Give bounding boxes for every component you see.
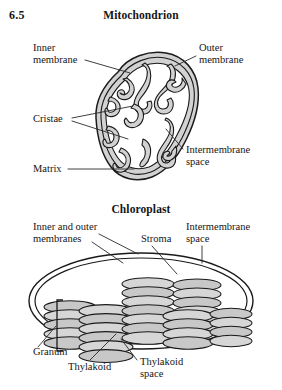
label-intermembrane-space-mito: Intermembrane space [186, 144, 250, 167]
leader-outer-membrane [175, 56, 196, 66]
granum-stack-4 [173, 279, 221, 336]
label-granum: Granum [33, 346, 67, 358]
inner-membrane-ellipse [35, 258, 247, 344]
granum-bracket [57, 300, 63, 351]
label-thylakoid: Thylakoid [68, 361, 111, 373]
thylakoid-disc [163, 337, 213, 349]
thylakoid-disc [173, 279, 221, 291]
thylakoid-disc [44, 310, 96, 322]
thylakoid-disc [122, 287, 174, 300]
leader-inner-membrane [85, 60, 130, 73]
thylakoid-disc [163, 328, 213, 340]
label-inner-membrane: Inner membrane [33, 42, 77, 65]
label-outer-membrane: Outer membrane [199, 42, 243, 65]
thylakoid-disc [79, 323, 133, 336]
label-intermembrane-space-chloro: Intermembrane space [186, 221, 250, 244]
thylakoid-disc [210, 335, 252, 347]
thylakoid-disc [44, 301, 96, 313]
chloroplast-panel: Chloroplast [0, 195, 282, 390]
label-cristae: Cristae [33, 113, 63, 125]
thylakoid-disc [173, 306, 221, 318]
leader-intermembrane-space [166, 129, 183, 149]
thylakoid-disc [173, 297, 221, 309]
chloroplast-title: Chloroplast [0, 203, 282, 215]
granum-stack-3 [122, 278, 174, 345]
granum-stack-2 [79, 305, 133, 363]
thylakoid-disc [79, 305, 133, 318]
thylakoid-disc [122, 305, 174, 318]
thylakoid-disc [163, 319, 213, 331]
leader-thylakoid-space [121, 339, 137, 360]
label-stroma: Stroma [141, 233, 171, 245]
thylakoid-disc [173, 324, 221, 336]
leader-cristae-1 [72, 106, 133, 118]
thylakoid-disc [79, 314, 133, 327]
leader-stroma [152, 246, 177, 274]
granum-stack-1 [44, 301, 96, 349]
thylakoid-disc [44, 328, 96, 340]
leader-cristae-2 [72, 121, 128, 139]
thylakoid-disc [122, 332, 174, 345]
label-inner-and-outer-membranes: Inner and outer membranes [33, 221, 97, 244]
thylakoid-disc [122, 314, 174, 327]
outer-membrane-shape [96, 52, 198, 179]
thylakoid-disc [122, 323, 174, 336]
thylakoid-disc [163, 310, 213, 322]
leader-granum [38, 326, 56, 347]
thylakoid-disc [79, 332, 133, 345]
thylakoid-disc [122, 296, 174, 309]
chloroplast-membranes [29, 253, 253, 349]
mitochondrion-title: Mitochondrion [0, 9, 282, 21]
matrix-region [106, 63, 189, 168]
leader-membranes-1 [99, 234, 138, 254]
mitochondrion-panel: 6.5 Mitochondrion [0, 0, 282, 195]
thylakoid-disc [173, 315, 221, 327]
thylakoid-disc [210, 308, 252, 320]
thylakoid-disc [173, 288, 221, 300]
leader-thylakoid [90, 334, 116, 360]
label-thylakoid-space: Thylakoid space [140, 356, 183, 379]
thylakoid-disc [79, 341, 133, 354]
thylakoid-disc [44, 319, 96, 331]
granum-stack-5 [163, 310, 213, 349]
mitochondrion-leader-lines [68, 56, 196, 169]
thylakoid-disc [210, 317, 252, 329]
figure-6-5: 6.5 Mitochondrion [0, 0, 282, 390]
mitochondrion-body [96, 52, 198, 179]
granum-stack-6 [210, 308, 252, 347]
chloroplast-leader-lines [38, 234, 202, 360]
thylakoid-disc [122, 278, 174, 291]
granum-stacks [44, 278, 252, 363]
thylakoid-disc [210, 326, 252, 338]
leader-membranes-2 [92, 242, 123, 263]
outer-membrane-ellipse [29, 253, 253, 349]
inner-membrane-shape [101, 57, 194, 174]
label-matrix: Matrix [33, 163, 62, 175]
cristae-folds [103, 63, 186, 172]
